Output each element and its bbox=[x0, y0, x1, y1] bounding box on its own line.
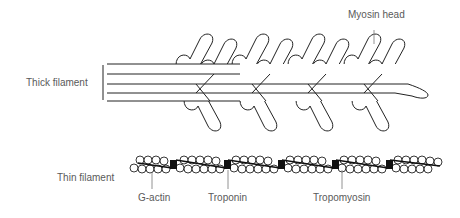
troponin-label: Troponin bbox=[208, 192, 247, 203]
tropomyosin-label: Tropomyosin bbox=[313, 192, 370, 203]
muscle-filament-diagram bbox=[0, 0, 460, 218]
thin-filament-label: Thin filament bbox=[57, 172, 114, 183]
g-actin-label: G-actin bbox=[138, 192, 170, 203]
thick-filament bbox=[103, 30, 428, 131]
thick-filament-label: Thick filament bbox=[26, 77, 88, 88]
myosin-heads-bottom bbox=[184, 100, 389, 131]
thick-filament-shaft bbox=[107, 64, 428, 101]
thin-filament bbox=[130, 156, 442, 189]
myosin-head-label: Myosin head bbox=[348, 9, 405, 20]
